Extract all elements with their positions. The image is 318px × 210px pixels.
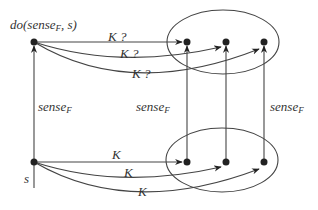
k-label-top-3: K ? <box>132 67 150 80</box>
k-label-bottom-2: K <box>124 166 133 179</box>
k-label-top-1: K ? <box>108 30 126 43</box>
sense-label-left: senseF <box>38 100 72 115</box>
sense-label-right: senseF <box>270 100 304 115</box>
node-bottom-1 <box>184 159 191 166</box>
node-s <box>31 159 38 166</box>
node-top-1 <box>184 39 191 46</box>
node-top-2 <box>223 39 230 46</box>
k-label-top-2: K ? <box>120 47 138 60</box>
bottom-state-label: s <box>24 172 29 185</box>
node-bottom-3 <box>261 159 268 166</box>
node-top-3 <box>261 39 268 46</box>
node-do-sense <box>31 39 38 46</box>
k-label-bottom-3: K <box>138 185 147 198</box>
top-state-label: do(senseF, s) <box>10 18 77 33</box>
k-label-bottom-1: K <box>112 148 121 161</box>
situation-diagram: do(senseF, s) s K ? K ? K ? K K K senseF… <box>0 0 318 210</box>
sense-label-middle: senseF <box>136 100 170 115</box>
node-bottom-2 <box>223 159 230 166</box>
